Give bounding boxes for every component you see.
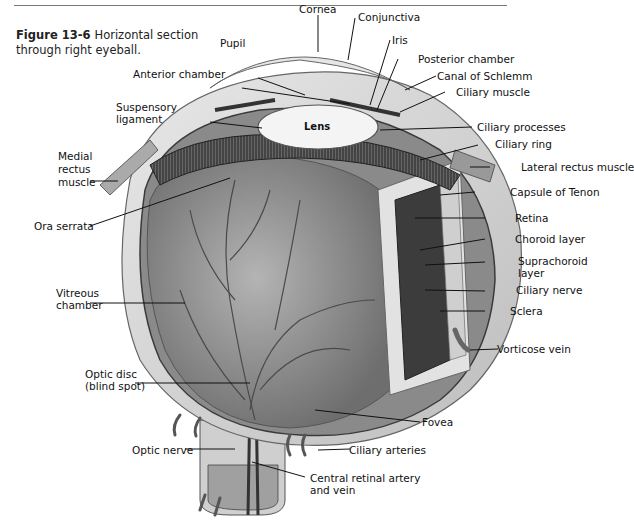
label-optic-disc-1: Optic disc (85, 368, 137, 380)
label-medial-rectus-2: rectus (58, 163, 91, 175)
label-suprachoroid-1: Suprachoroid (518, 255, 588, 267)
label-canal-of-schlemm: Canal of Schlemm (437, 70, 533, 82)
label-medial-rectus-1: Medial (58, 150, 92, 162)
label-optic-disc-2: (blind spot) (85, 380, 145, 392)
label-lateral-rectus: Lateral rectus muscle (521, 161, 634, 173)
label-capsule-of-tenon: Capsule of Tenon (510, 186, 600, 198)
label-ciliary-nerve: Ciliary nerve (516, 284, 583, 296)
label-ciliary-processes: Ciliary processes (477, 121, 566, 133)
label-anterior-chamber: Anterior chamber (133, 68, 225, 80)
label-ciliary-muscle: Ciliary muscle (456, 86, 530, 98)
label-central-retinal-1: Central retinal artery (310, 472, 420, 484)
label-pupil: Pupil (220, 37, 245, 49)
label-sclera: Sclera (510, 305, 543, 317)
label-cornea: Cornea (299, 3, 336, 15)
label-retina: Retina (515, 212, 548, 224)
label-ciliary-ring: Ciliary ring (495, 138, 552, 150)
label-lens: Lens (304, 121, 330, 133)
label-suspensory-ligament-2: ligament (116, 113, 162, 125)
label-suprachoroid-2: layer (518, 267, 544, 279)
label-suspensory-ligament-1: Suspensory (116, 101, 177, 113)
label-medial-rectus-3: muscle (58, 176, 96, 188)
label-vitreous-2: chamber (56, 299, 103, 311)
retina-cutaway (378, 160, 470, 395)
label-iris: Iris (392, 34, 408, 46)
label-ora-serrata: Ora serrata (34, 220, 94, 232)
label-central-retinal-2: and vein (310, 484, 355, 496)
label-vorticose-vein: Vorticose vein (497, 343, 571, 355)
label-optic-nerve: Optic nerve (132, 444, 193, 456)
label-ciliary-arteries: Ciliary arteries (349, 444, 426, 456)
label-vitreous-1: Vitreous (56, 287, 99, 299)
label-posterior-chamber: Posterior chamber (418, 53, 514, 65)
label-fovea: Fovea (422, 416, 453, 428)
label-choroid-layer: Choroid layer (515, 233, 585, 245)
label-conjunctiva: Conjunctiva (358, 11, 420, 23)
